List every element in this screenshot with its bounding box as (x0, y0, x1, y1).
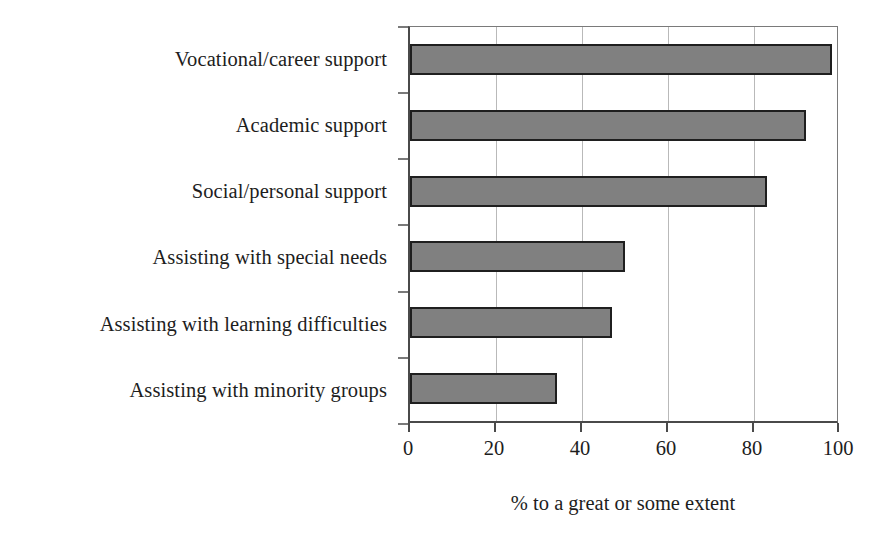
y-axis-tick (398, 224, 408, 226)
x-tick-label-60: 60 (656, 436, 677, 461)
x-tick-label-100: 100 (823, 436, 854, 461)
bar-assisting-minority-groups (410, 373, 557, 404)
bar-row (410, 93, 837, 159)
category-label: Academic support (0, 92, 398, 158)
bar-social-personal-support (410, 176, 767, 207)
y-axis-tick (398, 423, 408, 425)
x-axis-title: % to a great or some extent (408, 492, 838, 515)
y-axis-tick (398, 92, 408, 94)
x-axis-tick-labels: 0 20 40 60 80 100 (408, 436, 838, 468)
x-axis-tick (666, 423, 668, 432)
y-axis-tick (398, 357, 408, 359)
plot-area (408, 26, 838, 423)
category-label: Social/personal support (0, 158, 398, 224)
x-tick-label-0: 0 (403, 436, 413, 461)
x-axis-tick (408, 423, 410, 432)
bar-series (410, 27, 837, 421)
bar-assisting-learning-difficulties (410, 307, 612, 338)
x-axis-ticks (408, 423, 838, 433)
bar-row (410, 355, 837, 421)
category-label: Assisting with special needs (0, 225, 398, 291)
x-tick-label-40: 40 (570, 436, 591, 461)
bar-academic-support (410, 110, 806, 141)
x-tick-label-80: 80 (742, 436, 763, 461)
x-axis-tick (837, 423, 839, 432)
category-label: Assisting with learning difficulties (0, 291, 398, 357)
y-axis-tick (398, 291, 408, 293)
bar-row (410, 27, 837, 93)
bar-assisting-special-needs (410, 241, 625, 272)
category-axis-labels: Vocational/career support Academic suppo… (0, 26, 398, 423)
bar-row (410, 158, 837, 224)
bar-row (410, 290, 837, 356)
y-axis-tick (398, 158, 408, 160)
category-label: Vocational/career support (0, 26, 398, 92)
x-axis-tick (494, 423, 496, 432)
bar-chart: Vocational/career support Academic suppo… (0, 0, 893, 549)
bar-vocational-career-support (410, 44, 832, 75)
y-axis-tick (398, 26, 408, 28)
x-tick-label-20: 20 (484, 436, 505, 461)
x-axis-tick (580, 423, 582, 432)
category-label: Assisting with minority groups (0, 357, 398, 423)
bar-row (410, 224, 837, 290)
x-axis-tick (752, 423, 754, 432)
